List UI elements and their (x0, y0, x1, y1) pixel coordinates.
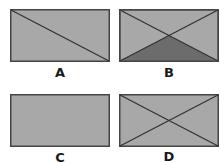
figure-a (10, 9, 110, 62)
figure-a-label: A (10, 66, 110, 80)
rectangle-double-diagonal-icon (119, 94, 219, 147)
figure-c (10, 94, 110, 147)
figure-b (119, 9, 219, 62)
figure-d-label: D (119, 150, 219, 162)
figure-c-label: C (10, 151, 110, 162)
rectangle-plain-icon (10, 94, 110, 147)
figure-d (119, 94, 219, 147)
figure-b-label: B (119, 66, 219, 80)
rectangle-single-diagonal-icon (10, 9, 110, 62)
rectangle-shaded-bottom-triangle-icon (119, 9, 219, 62)
